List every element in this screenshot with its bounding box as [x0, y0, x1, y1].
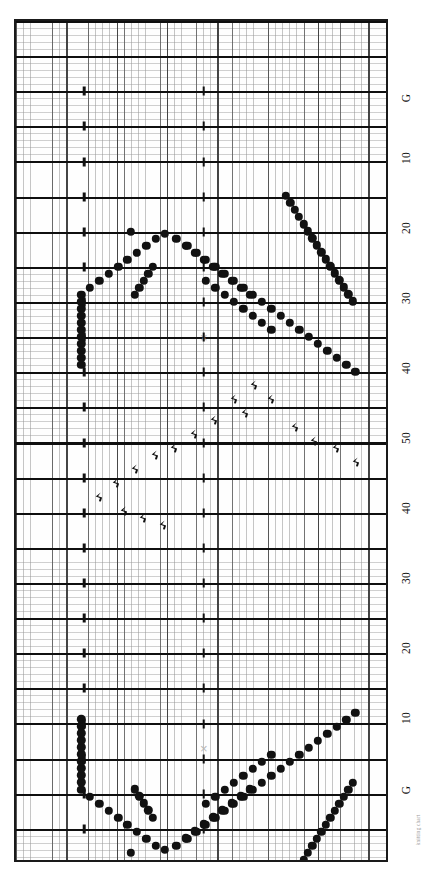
row-tick-mark	[83, 789, 86, 798]
row-tick-mark	[202, 227, 205, 236]
row-tick-mark	[202, 87, 205, 96]
row-tick-mark	[83, 649, 86, 658]
row-tick-mark	[202, 368, 205, 377]
row-tick-mark	[202, 614, 205, 623]
row-tick-mark	[202, 157, 205, 166]
row-tick-mark	[83, 87, 86, 96]
row-tick-mark	[202, 122, 205, 131]
row-tick-mark	[83, 227, 86, 236]
row-tick-mark	[83, 403, 86, 412]
row-axis-label: 50	[400, 432, 412, 444]
row-tick-mark	[83, 754, 86, 763]
row-tick-mark	[83, 473, 86, 482]
chart-plot-area	[14, 19, 388, 862]
row-axis-label: 10	[400, 712, 412, 724]
row-tick-mark	[202, 754, 205, 763]
row-tick-mark	[83, 192, 86, 201]
heavy-row-rule-layer	[16, 21, 386, 860]
row-axis-label: G	[400, 94, 412, 103]
row-tick-mark	[202, 298, 205, 307]
chart-footnote: knitting chart	[415, 815, 421, 846]
row-tick-mark	[83, 719, 86, 728]
row-tick-mark	[83, 333, 86, 342]
row-axis-label: 40	[400, 362, 412, 374]
row-tick-mark	[202, 789, 205, 798]
row-tick-mark	[83, 579, 86, 588]
row-tick-mark	[83, 122, 86, 131]
row-tick-mark	[202, 543, 205, 552]
row-tick-mark	[202, 508, 205, 517]
row-tick-mark	[202, 262, 205, 271]
row-tick-mark	[202, 824, 205, 833]
row-axis-label: 30	[400, 572, 412, 584]
row-axis-label: 20	[400, 642, 412, 654]
row-axis-label: 20	[400, 222, 412, 234]
row-tick-mark	[83, 438, 86, 447]
row-tick-mark	[202, 403, 205, 412]
row-axis-label: 40	[400, 502, 412, 514]
row-tick-mark	[202, 649, 205, 658]
row-tick-mark	[83, 157, 86, 166]
row-tick-mark	[83, 298, 86, 307]
row-tick-mark	[202, 579, 205, 588]
row-axis-label: 30	[400, 292, 412, 304]
row-tick-mark	[83, 543, 86, 552]
row-tick-mark	[202, 438, 205, 447]
row-tick-mark	[83, 824, 86, 833]
row-axis-label: 10	[400, 152, 412, 164]
row-tick-mark	[202, 473, 205, 482]
row-tick-mark	[83, 368, 86, 377]
row-tick-mark	[202, 719, 205, 728]
row-axis-label: G	[400, 786, 412, 795]
row-tick-mark	[202, 684, 205, 693]
row-tick-mark	[83, 614, 86, 623]
row-tick-mark	[83, 508, 86, 517]
row-tick-mark	[83, 684, 86, 693]
knitting-chart-root: G102030405040302010G knitting chart	[0, 0, 430, 882]
row-tick-mark	[202, 192, 205, 201]
row-tick-mark	[202, 333, 205, 342]
row-tick-mark	[83, 262, 86, 271]
